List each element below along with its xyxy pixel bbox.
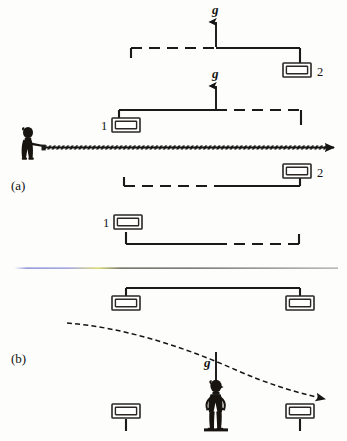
- detector-a-lower: [283, 164, 311, 178]
- detector-a-top: [283, 63, 311, 77]
- panel-label-b: (b): [11, 351, 26, 366]
- light-beam-a: [42, 145, 335, 151]
- figure-canvas: 2 g 1 g: [0, 0, 347, 441]
- detector-a-bottom: [114, 215, 142, 229]
- detector-label-a-middle: 1: [101, 119, 107, 133]
- detector-label-a-bottom: 1: [103, 216, 109, 230]
- detector-b-top-left: [112, 296, 140, 310]
- physics-figure: 2 g 1 g: [0, 0, 347, 441]
- gravity-label-b: g: [203, 355, 211, 370]
- panel-label-a: (a): [11, 178, 25, 193]
- detector-b-bottom-left: [112, 404, 140, 418]
- gravity-label-a-middle: g: [211, 66, 219, 81]
- detector-label-a-lower: 2: [317, 166, 323, 180]
- panel-divider: [14, 267, 338, 269]
- detector-b-bottom-right: [286, 404, 314, 418]
- detector-label-a-top: 2: [317, 65, 323, 79]
- gravity-label-a-top: g: [211, 2, 219, 17]
- detector-b-top-right: [286, 296, 314, 310]
- detector-a-middle: [112, 118, 140, 132]
